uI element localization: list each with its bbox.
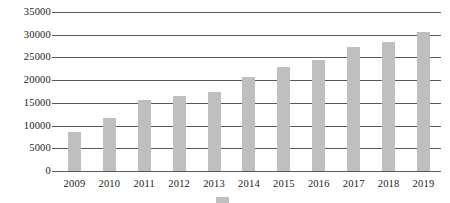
legend-swatch-icon xyxy=(216,197,229,203)
chart-legend xyxy=(0,196,450,203)
bar-series xyxy=(57,12,441,171)
bar-slot xyxy=(127,12,162,171)
bar xyxy=(103,118,116,171)
x-axis-slot: 2017 xyxy=(336,173,371,191)
bar-slot xyxy=(406,12,441,171)
y-axis-tickmark xyxy=(52,171,57,172)
bar xyxy=(173,96,186,171)
x-axis-tick-label: 2019 xyxy=(413,178,435,189)
x-axis-slot: 2016 xyxy=(301,173,336,191)
bar-slot xyxy=(371,12,406,171)
x-axis-tick-label: 2014 xyxy=(238,178,260,189)
y-axis-tick-label: 35000 xyxy=(24,7,51,18)
x-axis-slot: 2010 xyxy=(92,173,127,191)
x-axis-slot: 2012 xyxy=(162,173,197,191)
bar xyxy=(382,42,395,171)
bar xyxy=(347,47,360,171)
y-axis-tick-label: 30000 xyxy=(24,29,51,40)
x-axis-slot: 2011 xyxy=(127,173,162,191)
x-axis-tick-label: 2010 xyxy=(98,178,120,189)
y-axis-tick-label: 10000 xyxy=(24,120,51,131)
x-axis-slot: 2013 xyxy=(197,173,232,191)
x-axis-tick-label: 2011 xyxy=(134,178,155,189)
x-axis-tick-label: 2018 xyxy=(378,178,400,189)
y-axis-tick-label: 20000 xyxy=(24,75,51,86)
x-axis-slot: 2018 xyxy=(371,173,406,191)
bar-slot xyxy=(162,12,197,171)
bar xyxy=(68,132,81,171)
bar-slot xyxy=(301,12,336,171)
x-axis-slot: 2009 xyxy=(57,173,92,191)
x-axis-tick-label: 2017 xyxy=(343,178,365,189)
bar xyxy=(242,77,255,171)
y-axis-tick-label: 0 xyxy=(46,166,51,177)
bar-slot xyxy=(336,12,371,171)
bar-slot xyxy=(232,12,267,171)
y-axis-tick-label: 25000 xyxy=(24,52,51,63)
bar-slot xyxy=(57,12,92,171)
bar xyxy=(277,67,290,171)
bar-slot xyxy=(266,12,301,171)
bar-slot xyxy=(197,12,232,171)
x-axis-tick-label: 2016 xyxy=(308,178,330,189)
bar xyxy=(312,60,325,171)
bar-chart-figure: 35000300002500020000150001000050000 2009… xyxy=(0,0,450,203)
x-axis-tick-label: 2015 xyxy=(273,178,295,189)
bar xyxy=(138,100,151,171)
bar xyxy=(417,32,430,171)
x-axis-tick-label: 2013 xyxy=(203,178,225,189)
plot-area: 35000300002500020000150001000050000 xyxy=(57,12,441,171)
x-axis-tick-label: 2012 xyxy=(168,178,190,189)
x-axis-slot: 2014 xyxy=(232,173,267,191)
bar-slot xyxy=(92,12,127,171)
y-axis-tick-label: 15000 xyxy=(24,98,51,109)
x-axis-slot: 2015 xyxy=(266,173,301,191)
x-axis-tick-labels: 2009201020112012201320142015201620172018… xyxy=(57,173,441,191)
x-axis-tick-label: 2009 xyxy=(64,178,86,189)
y-axis-tick-label: 5000 xyxy=(29,143,51,154)
bar xyxy=(208,92,221,172)
gridline xyxy=(57,171,441,172)
x-axis-slot: 2019 xyxy=(406,173,441,191)
